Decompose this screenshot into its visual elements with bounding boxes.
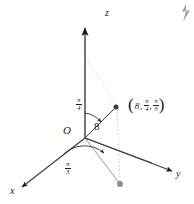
polar-angle-label: π 4 (76, 97, 82, 113)
z-axis-label: z (105, 8, 109, 18)
polar-angle-denominator: 4 (76, 104, 82, 112)
point-marker (114, 105, 119, 110)
x-axis (22, 138, 85, 187)
close-paren: ) (159, 98, 165, 112)
azimuthal-angle-label: π 3 (65, 161, 71, 177)
y-axis-label: y (176, 169, 180, 179)
projection-point-marker (117, 181, 123, 187)
spherical-coordinates-figure: z x y O 8 π 4 π 3 ( 8 , π 4 , π 3 ) (0, 0, 194, 204)
figure-canvas (0, 0, 194, 204)
azimuthal-angle-denominator: 3 (65, 168, 71, 176)
radius-length-label: 8 (94, 121, 100, 132)
point-coordinate-label: ( 8 , π 4 , π 3 ) (128, 98, 164, 114)
azimuthal-angle-numerator: π (65, 161, 71, 168)
upper-dotted-guide (86, 58, 117, 106)
x-axis-label: x (10, 186, 14, 196)
polar-angle-numerator: π (76, 97, 82, 104)
vertical-dotted-drop-line (117, 108, 120, 183)
corner-scan-artifact-icon (170, 2, 192, 26)
origin-label: O (63, 125, 71, 136)
open-paren: ( (128, 98, 134, 112)
radial-segment (85, 107, 116, 138)
